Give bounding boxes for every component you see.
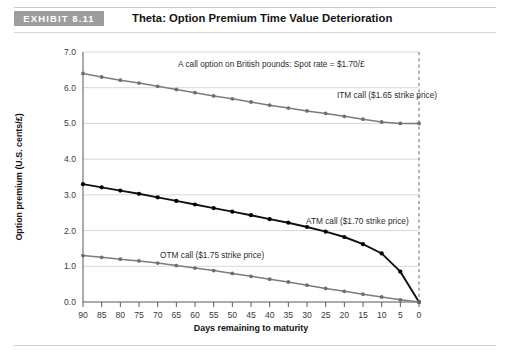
annotation-itm-label: ITM call ($1.65 strike price) [337,90,437,100]
y-axis-tick-labels: 0.01.02.03.04.05.06.07.0 [64,47,76,307]
data-point [398,298,402,302]
data-point [137,81,141,85]
header-rule-top [14,7,496,8]
data-point [100,255,104,259]
data-point [249,274,253,278]
x-tick-label: 55 [209,310,219,320]
y-axis-title: Option premium (U.S. cents/£) [14,113,24,240]
data-point [417,122,421,126]
data-point [342,289,346,293]
data-point [249,100,253,104]
data-point [212,206,216,210]
data-point [81,254,85,258]
annotation-atm-label: ATM call ($1.70 strike price) [306,216,409,226]
data-point [137,259,141,263]
x-tick-label: 70 [153,310,163,320]
data-point [286,106,290,110]
exhibit-title: Theta: Option Premium Time Value Deterio… [132,10,392,26]
header-rule-bottom [14,32,496,33]
data-point [268,103,272,107]
data-point [305,283,309,287]
x-tick-label: 65 [172,310,182,320]
data-point [212,269,216,273]
data-point [380,251,384,255]
data-point [156,195,160,199]
chart-container: 0.01.02.03.04.05.06.07.0 908580757065605… [0,34,506,345]
y-tick-label: 2.0 [64,226,76,236]
exhibit-badge: EXHIBIT 8.11 [14,11,104,26]
data-point [193,202,197,206]
gridlines [83,52,419,266]
data-point [342,114,346,118]
y-tick-label: 3.0 [64,190,76,200]
data-point [305,109,309,113]
data-point [100,75,104,79]
data-point [286,280,290,284]
x-tick-label: 85 [97,310,107,320]
annotation-spot-rate: A call option on British pounds: Spot ra… [178,59,365,69]
x-tick-label: 20 [340,310,350,320]
y-tick-label: 1.0 [64,261,76,271]
data-point [118,257,122,261]
x-tick-label: 75 [134,310,144,320]
series-atm [81,182,421,304]
data-point [230,97,234,101]
y-tick-label: 4.0 [64,154,76,164]
data-point [174,199,178,203]
data-point [398,122,402,126]
exhibit-header: EXHIBIT 8.11 Theta: Option Premium Time … [0,0,506,34]
x-axis-tickmarks [83,302,419,307]
data-point [268,277,272,281]
x-tick-label: 50 [228,310,238,320]
footer-rule [14,345,496,346]
data-point [268,217,272,221]
x-tick-label: 0 [417,310,422,320]
data-point [324,287,328,291]
x-tick-label: 35 [284,310,294,320]
data-point [230,272,234,276]
x-tick-label: 15 [358,310,368,320]
data-point [81,72,85,76]
x-tick-label: 30 [302,310,312,320]
x-tick-label: 80 [116,310,126,320]
data-point [249,213,253,217]
data-point [100,185,104,189]
x-axis-title: Days remaining to maturity [194,323,308,333]
data-point [324,112,328,116]
data-point [417,300,421,304]
data-point [361,117,365,121]
data-point [137,192,141,196]
x-tick-label: 45 [246,310,256,320]
x-tick-label: 5 [398,310,403,320]
series-layer [81,72,421,305]
data-point [361,242,365,246]
y-tick-label: 7.0 [64,47,76,57]
data-point [380,295,384,299]
annotation-otm-label: OTM call ($1.75 strike price) [160,250,264,260]
data-point [324,230,328,234]
x-tick-label: 40 [265,310,275,320]
data-point [286,221,290,225]
series-line-otm [83,256,419,302]
y-tick-label: 6.0 [64,83,76,93]
data-point [118,188,122,192]
data-point [81,182,85,186]
data-point [398,270,402,274]
x-tick-label: 90 [78,310,88,320]
y-tick-label: 5.0 [64,118,76,128]
data-point [174,264,178,268]
data-point [361,292,365,296]
data-point [193,266,197,270]
data-point [380,120,384,124]
data-point [156,84,160,88]
series-line-atm [83,184,419,302]
x-tick-label: 25 [321,310,331,320]
x-tick-label: 10 [377,310,387,320]
x-axis-tick-labels: 908580757065605550454035302520151050 [78,310,421,320]
data-point [193,91,197,95]
data-point [118,78,122,82]
data-point [230,210,234,214]
data-point [212,94,216,98]
time-value-decay-line-chart: 0.01.02.03.04.05.06.07.0 908580757065605… [0,34,506,345]
y-tick-label: 0.0 [64,297,76,307]
